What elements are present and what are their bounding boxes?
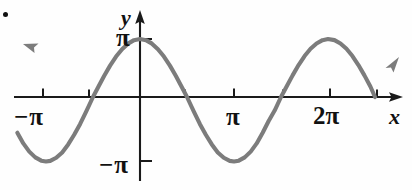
- curve-right-arrowhead: [386, 57, 400, 73]
- y-axis-label-pi: π: [116, 25, 130, 50]
- y-axis-label-neg-pi: −π: [99, 152, 129, 177]
- x-axis-name-label: x: [389, 106, 400, 128]
- plot-canvas: [0, 0, 412, 190]
- x-axis-label-pi: π: [226, 104, 240, 129]
- cosine-curve: [17, 39, 375, 162]
- curve-left-arrowhead: [23, 44, 39, 54]
- x-axis-label-2pi: 2π: [313, 103, 339, 128]
- x-axis-label-neg-pi: −π: [14, 104, 44, 129]
- cosine-graph-figure: −π π 2π x y π −π: [0, 0, 412, 190]
